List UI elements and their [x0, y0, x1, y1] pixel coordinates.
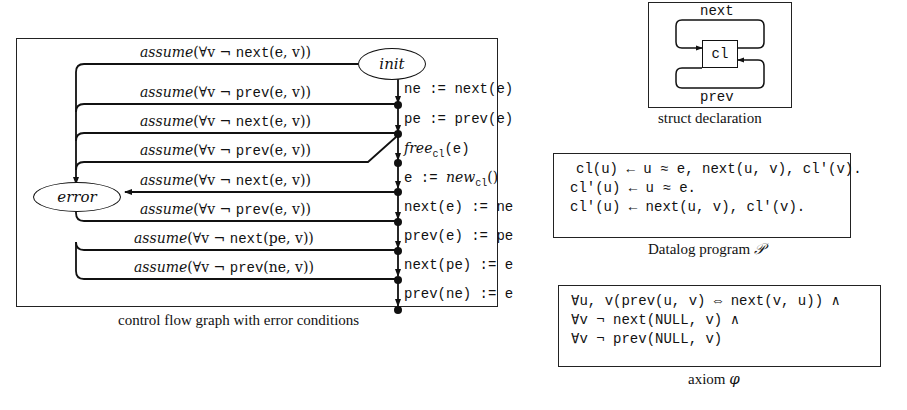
struct-field-next: next	[700, 3, 734, 19]
datalog-caption: Datalog program 𝒫	[648, 240, 765, 258]
datalog-rule: cl′(u) ← u ≈ e.	[570, 179, 862, 198]
axiom-panel: ∀u, v(prev(u, v) ⇔ next(v, u)) ∧ ∀v ¬ ne…	[558, 285, 881, 367]
struct-field-prev: prev	[700, 89, 734, 105]
axiom-line: ∀u, v(prev(u, v) ⇔ next(v, u)) ∧	[571, 292, 840, 311]
datalog-panel: cl(u) ← u ≈ e, next(u, v), cl′(v). cl′(u…	[553, 153, 851, 238]
struct-caption: struct declaration	[658, 110, 762, 127]
axiom-line: ∀v ¬ next(NULL, v) ∧	[571, 311, 840, 330]
axiom-line: ∀v ¬ prev(NULL, v)	[571, 330, 840, 349]
struct-node-cl: cl	[702, 40, 738, 68]
axiom-caption: axiom φ	[688, 370, 740, 388]
datalog-rule: cl(u) ← u ≈ e, next(u, v), cl′(v).	[570, 160, 862, 179]
datalog-rule: cl′(u) ← next(u, v), cl′(v).	[570, 198, 862, 217]
